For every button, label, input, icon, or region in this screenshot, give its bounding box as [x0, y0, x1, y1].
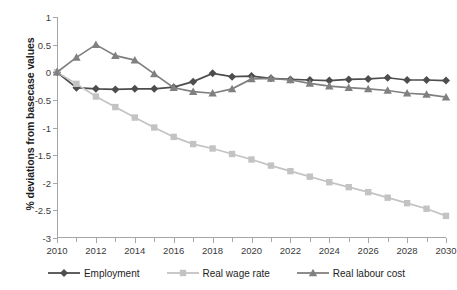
data-point-diamond: [150, 85, 158, 93]
legend-label: Real labour cost: [333, 268, 405, 279]
data-point-diamond: [60, 269, 68, 277]
y-tick-label: 0.5: [38, 39, 51, 50]
data-point-square: [404, 200, 410, 206]
x-tick-minor: [193, 238, 194, 242]
legend-item-real-labour-cost[interactable]: Real labour cost: [296, 267, 405, 279]
legend-label: Employment: [84, 268, 140, 279]
x-tick-minor: [427, 238, 428, 242]
y-tick-label: -1.5: [35, 150, 51, 161]
y-tick-label: -0.5: [35, 94, 51, 105]
data-point-square: [171, 134, 177, 140]
data-point-square: [443, 213, 449, 219]
data-point-square: [268, 162, 274, 168]
data-point-square: [151, 124, 157, 130]
x-tick-minor: [388, 238, 389, 242]
data-point-diamond: [345, 75, 353, 83]
y-tick-label: -1: [43, 122, 51, 133]
data-point-diamond: [403, 76, 411, 84]
x-tick-label: 2018: [202, 245, 223, 256]
plot-area: 10.50-0.5-1-1.5-2-2.5-3 2010201220142016…: [57, 17, 446, 238]
x-tick-label: 2010: [46, 245, 67, 256]
data-series-layer: [57, 17, 446, 238]
data-point-diamond: [364, 75, 372, 83]
x-tick-major: [407, 238, 408, 243]
data-point-square: [287, 168, 293, 174]
data-point-diamond: [111, 85, 119, 93]
x-tick-major: [446, 238, 447, 243]
x-tick-major: [57, 238, 58, 243]
data-point-diamond: [189, 78, 197, 86]
data-point-diamond: [423, 76, 431, 84]
data-point-square: [190, 141, 196, 147]
data-point-square: [73, 81, 79, 87]
x-tick-major: [329, 238, 330, 243]
data-point-square: [132, 114, 138, 120]
legend-label: Real wage rate: [203, 268, 270, 279]
series-real-labour-cost: [53, 40, 450, 100]
data-point-square: [229, 151, 235, 157]
x-tick-label: 2016: [163, 245, 184, 256]
x-tick-label: 2012: [85, 245, 106, 256]
data-point-square: [384, 194, 390, 200]
x-tick-major: [290, 238, 291, 243]
data-point-square: [93, 93, 99, 99]
data-point-square: [307, 173, 313, 179]
x-tick-major: [252, 238, 253, 243]
x-tick-minor: [115, 238, 116, 242]
x-tick-minor: [154, 238, 155, 242]
x-tick-major: [368, 238, 369, 243]
data-point-square: [112, 104, 118, 110]
data-point-square: [365, 189, 371, 195]
x-tick-minor: [310, 238, 311, 242]
data-point-diamond: [209, 69, 217, 77]
y-tick-label: 0: [46, 67, 51, 78]
data-point-diamond: [442, 77, 450, 85]
x-tick-label: 2024: [319, 245, 340, 256]
x-tick-label: 2030: [435, 245, 456, 256]
data-point-square: [423, 206, 429, 212]
x-tick-major: [174, 238, 175, 243]
y-tick-label: -2.5: [35, 205, 51, 216]
legend-key-square-icon: [166, 267, 200, 279]
data-point-square: [248, 156, 254, 162]
x-tick-major: [213, 238, 214, 243]
x-tick-label: 2026: [358, 245, 379, 256]
data-point-diamond: [92, 85, 100, 93]
data-point-triangle: [72, 53, 80, 61]
x-tick-major: [96, 238, 97, 243]
y-tick-label: -3: [43, 233, 51, 244]
data-point-diamond: [131, 85, 139, 93]
data-point-square: [179, 270, 185, 276]
data-point-triangle: [228, 85, 236, 93]
x-tick-label: 2014: [124, 245, 145, 256]
y-tick-label: -2: [43, 177, 51, 188]
data-point-square: [346, 184, 352, 190]
x-tick-minor: [76, 238, 77, 242]
data-point-diamond: [384, 74, 392, 82]
y-tick-label: 1: [46, 12, 51, 23]
x-tick-minor: [271, 238, 272, 242]
legend-key-triangle-icon: [296, 267, 330, 279]
data-point-square: [209, 145, 215, 151]
data-point-diamond: [228, 73, 236, 81]
legend-key-diamond-icon: [47, 267, 81, 279]
x-tick-label: 2020: [241, 245, 262, 256]
x-tick-major: [135, 238, 136, 243]
x-tick-minor: [349, 238, 350, 242]
data-point-triangle: [92, 40, 100, 48]
x-tick-label: 2022: [280, 245, 301, 256]
chart-legend: EmploymentReal wage rateReal labour cost: [0, 267, 452, 279]
x-tick-minor: [232, 238, 233, 242]
x-tick-label: 2028: [397, 245, 418, 256]
data-point-square: [326, 179, 332, 185]
legend-item-real-wage-rate[interactable]: Real wage rate: [166, 267, 270, 279]
data-point-triangle: [111, 51, 119, 59]
legend-item-employment[interactable]: Employment: [47, 267, 140, 279]
